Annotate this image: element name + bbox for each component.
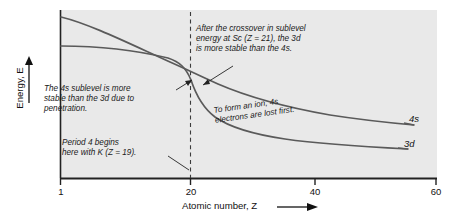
curve-label-3d: 3d: [404, 138, 415, 149]
annotation-period-4: Period 4 begins here with K (Z = 19).: [62, 138, 136, 158]
annotation-crossover: After the crossover in sublevel energy a…: [196, 24, 306, 54]
annotation-penetration: The 4s sublevel is more stable than the …: [44, 84, 134, 114]
x-tick-label-60: 60: [426, 186, 446, 197]
curve-label-4s: 4s: [409, 113, 419, 124]
x-tick-label-20: 20: [181, 186, 201, 197]
x-axis-title: Atomic number, Z: [182, 200, 257, 211]
x-tick-label-1: 1: [51, 186, 71, 197]
figure-root: Energy, E 1 20 40 60 Atomic number, Z Af…: [0, 0, 459, 217]
x-axis-arrow: [277, 201, 319, 213]
x-tick-label-40: 40: [305, 186, 325, 197]
y-axis-arrow: [22, 55, 36, 105]
